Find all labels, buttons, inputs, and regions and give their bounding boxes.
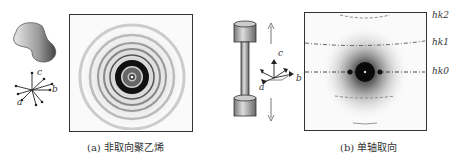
axis-label-a: a — [259, 82, 264, 92]
axis-label-c: c — [278, 48, 283, 58]
layer-line-label-hk0: hk0 — [432, 66, 449, 76]
oriented-diffraction-pattern — [304, 12, 427, 131]
axis-label-b: b — [296, 73, 302, 83]
unoriented-sample-shape — [10, 20, 60, 65]
layer-line-label-hk2: hk2 — [432, 10, 449, 20]
debye-rings — [70, 15, 191, 130]
caption-b: (b) 单轴取向 — [340, 139, 397, 154]
axis-label-c: c — [37, 67, 42, 77]
unoriented-diffraction-pattern — [69, 14, 193, 132]
axis-label-a: a — [17, 97, 22, 107]
fiber-pattern — [305, 13, 425, 129]
axis-label-b: b — [52, 84, 58, 94]
layer-line-label-hk1: hk1 — [432, 37, 449, 47]
caption-a: (a) 非取向聚乙烯 — [87, 139, 164, 154]
